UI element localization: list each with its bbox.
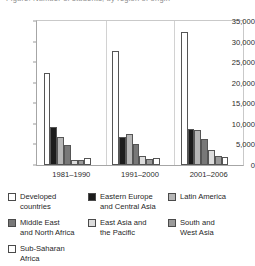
bar <box>126 134 133 165</box>
bar <box>112 51 119 165</box>
bar <box>215 156 222 165</box>
bar <box>208 150 215 165</box>
x-axis-tick-label: 2001–2006 <box>190 170 228 179</box>
bar-group <box>174 21 243 165</box>
bar <box>57 137 64 165</box>
bar <box>201 139 208 165</box>
y-axis-tick-mark <box>33 144 36 145</box>
bar <box>84 158 91 165</box>
bar <box>119 137 126 165</box>
legend-item-label: Developed countries <box>20 192 56 211</box>
y-axis-tick-mark <box>33 165 36 166</box>
y-axis-tick-mark <box>33 41 36 42</box>
legend-item[interactable]: Latin America <box>168 192 254 202</box>
legend-item-label: Sub-Saharan Africa <box>20 244 65 263</box>
bar <box>194 130 201 165</box>
y-axis-tick-mark <box>33 103 36 104</box>
legend-swatch-icon <box>88 219 96 227</box>
legend-item-label: Latin America <box>180 192 226 202</box>
legend-item[interactable]: Middle East and North Africa <box>8 218 88 237</box>
bar <box>222 157 229 165</box>
legend-item[interactable]: Sub-Saharan Africa <box>8 244 88 263</box>
legend-item[interactable]: Developed countries <box>8 192 88 211</box>
bar <box>44 73 51 165</box>
legend-swatch-icon <box>88 193 96 201</box>
bar <box>71 160 78 165</box>
y-axis-tick-mark <box>33 62 36 63</box>
legend-swatch-icon <box>8 245 16 253</box>
legend-item[interactable]: Eastern Europe and Central Asia <box>88 192 168 211</box>
bars-layer <box>37 21 243 165</box>
legend-swatch-icon <box>168 219 176 227</box>
bar-group <box>37 21 106 165</box>
bar <box>78 160 85 165</box>
legend-item-label: East Asia and the Pacific <box>100 218 146 237</box>
x-axis-tick-label: 1991–2000 <box>121 170 159 179</box>
y-axis-tick-mark <box>33 21 36 22</box>
legend-swatch-icon <box>8 219 16 227</box>
legend-item-label: South and West Asia <box>180 218 215 237</box>
legend-swatch-icon <box>8 193 16 201</box>
legend-item-label: Eastern Europe and Central Asia <box>100 192 156 211</box>
x-axis-tick-label: 1981–1990 <box>52 170 90 179</box>
bar-chart: 05,00010,00015,00020,00025,00030,00035,0… <box>0 6 255 192</box>
bar <box>133 144 140 165</box>
chart-legend: Developed countriesEastern Europe and Ce… <box>0 192 255 266</box>
legend-item[interactable]: South and West Asia <box>168 218 254 237</box>
bar <box>153 158 160 165</box>
bar <box>146 159 153 165</box>
legend-swatch-icon <box>168 193 176 201</box>
bar <box>50 127 57 165</box>
bar <box>188 129 195 165</box>
legend-item-label: Middle East and North Africa <box>20 218 74 237</box>
bar-group <box>106 21 175 165</box>
legend-item[interactable]: East Asia and the Pacific <box>88 218 168 237</box>
chart-title: Figure: Number of students, by region of… <box>6 0 170 3</box>
bar <box>64 145 71 165</box>
bar <box>139 156 146 165</box>
y-axis-tick-mark <box>33 82 36 83</box>
y-axis-tick-mark <box>33 123 36 124</box>
bar <box>181 32 188 165</box>
